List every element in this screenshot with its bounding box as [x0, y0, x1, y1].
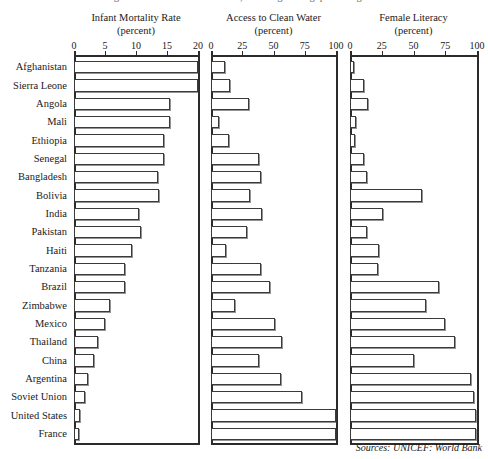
bar [211, 373, 281, 385]
bar [74, 226, 141, 238]
bar [211, 98, 249, 110]
bar [211, 61, 225, 73]
bar [350, 299, 426, 311]
bar [350, 226, 367, 238]
country-label: Bangladesh [0, 171, 70, 182]
bar [350, 281, 439, 293]
country-label: Sierra Leone [0, 80, 70, 91]
bar [211, 208, 262, 220]
country-label: Mali [0, 116, 70, 127]
bar [74, 134, 164, 146]
bar [211, 391, 302, 403]
plot-frame [211, 55, 338, 445]
bar [74, 208, 139, 220]
bar [211, 79, 230, 91]
country-label: United States [0, 410, 70, 421]
bar [74, 299, 110, 311]
panel-title-units: (percent) [288, 24, 488, 37]
bar [74, 171, 158, 183]
bar [74, 318, 105, 330]
bar [211, 336, 282, 348]
bar [74, 98, 170, 110]
bar [211, 116, 219, 128]
bar [350, 61, 354, 73]
country-label: Tanzania [0, 263, 70, 274]
bar [74, 61, 198, 73]
bar [350, 263, 378, 275]
bar [74, 281, 125, 293]
country-label: Bolivia [0, 190, 70, 201]
bar [211, 428, 336, 440]
bar [211, 263, 261, 275]
country-label: India [0, 208, 70, 219]
bar [350, 208, 383, 220]
bar [211, 281, 270, 293]
bar [350, 428, 476, 440]
country-label: Brazil [0, 281, 70, 292]
bar [350, 134, 355, 146]
country-label: China [0, 355, 70, 366]
bar [74, 189, 159, 201]
panel-title-main: Female Literacy [288, 11, 488, 24]
bar [350, 354, 414, 366]
bar [350, 409, 476, 421]
bar [350, 116, 356, 128]
country-label: Senegal [0, 153, 70, 164]
bar [350, 244, 379, 256]
bar [74, 263, 125, 275]
panel-title: Female Literacy(percent) [288, 11, 488, 37]
bar [74, 244, 132, 256]
bar [74, 409, 80, 421]
panel-titles: Infant Mortality Rate(percent)Access to … [0, 11, 488, 39]
country-label: Thailand [0, 336, 70, 347]
country-label: Afghanistan [0, 61, 70, 72]
bar [74, 373, 88, 385]
source-note: Sources: UNICEF: World Bank [356, 442, 482, 453]
bar [211, 226, 247, 238]
cut-off-caption-text: a rough measure of social welfare, showi… [0, 0, 488, 5]
bar [350, 391, 474, 403]
bar [211, 189, 250, 201]
country-label: France [0, 428, 70, 439]
bar [350, 153, 364, 165]
bar [350, 373, 471, 385]
bar [211, 171, 261, 183]
bar [350, 318, 445, 330]
bar [350, 79, 364, 91]
bar [74, 79, 198, 91]
bar [350, 336, 455, 348]
bar [74, 336, 98, 348]
bar [74, 116, 170, 128]
bar [211, 318, 275, 330]
country-label: Soviet Union [0, 391, 70, 402]
bar [74, 391, 85, 403]
country-label: Angola [0, 98, 70, 109]
infant-mortality-access-water-female-literacy-figure: a rough measure of social welfare, showi… [0, 0, 488, 459]
bar [211, 153, 259, 165]
bar [211, 409, 336, 421]
bar [211, 299, 235, 311]
country-label: Mexico [0, 318, 70, 329]
country-label: Argentina [0, 373, 70, 384]
bar [211, 244, 226, 256]
bar [350, 171, 367, 183]
country-label: Haiti [0, 245, 70, 256]
bar [74, 428, 79, 440]
country-label: Pakistan [0, 226, 70, 237]
country-label: Zimbabwe [0, 300, 70, 311]
bar [350, 98, 368, 110]
bar [74, 354, 94, 366]
bar [74, 153, 164, 165]
bar [211, 354, 259, 366]
country-label: Ethiopia [0, 135, 70, 146]
bar [211, 134, 229, 146]
bar [350, 189, 422, 201]
